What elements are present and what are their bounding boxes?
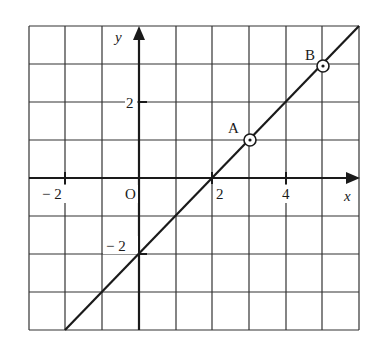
- x-tick-label-2: 2: [216, 186, 224, 202]
- x-axis-label: x: [343, 188, 351, 204]
- y-axis-label: y: [113, 29, 122, 45]
- y-tick-label-2: 2: [126, 95, 134, 111]
- point-a: [244, 134, 256, 146]
- y-tick-label-neg2: − 2: [106, 238, 126, 254]
- point-a-label: A: [228, 120, 239, 136]
- y-axis-arrow-icon: [133, 26, 145, 40]
- x-axis-arrow-icon: [346, 172, 360, 184]
- axes: [29, 36, 350, 330]
- x-tick-label-4: 4: [282, 186, 290, 202]
- coordinate-graph: − 2 O 2 4 x y 2 − 2 A B: [0, 0, 374, 354]
- point-b-label: B: [305, 47, 315, 63]
- x-tick-label-neg2: − 2: [42, 186, 62, 202]
- point-b: [317, 60, 329, 72]
- origin-label: O: [125, 186, 136, 202]
